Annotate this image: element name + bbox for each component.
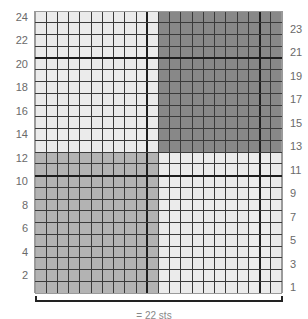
row-label-left: 18	[8, 81, 28, 93]
grid-line-horizontal	[35, 246, 282, 247]
grid-line-horizontal	[35, 257, 282, 258]
grid-line-horizontal	[35, 22, 282, 23]
row-label-left: 6	[8, 222, 28, 234]
row-label-left: 4	[8, 246, 28, 258]
grid-line-horizontal	[35, 281, 282, 282]
grid-line-horizontal	[35, 163, 282, 164]
knitting-chart-grid	[35, 11, 282, 293]
row-label-left: 14	[8, 128, 28, 140]
bracket-caption: = 22 sts	[0, 310, 308, 319]
row-label-left: 10	[8, 175, 28, 187]
row-label-right: 15	[290, 117, 308, 129]
grid-line-horizontal	[35, 69, 282, 70]
row-label-right: 23	[290, 23, 308, 35]
grid-line-horizontal	[35, 46, 282, 47]
row-label-right: 3	[290, 258, 308, 270]
grid-line-horizontal	[35, 187, 282, 188]
row-label-left: 16	[8, 105, 28, 117]
row-label-right: 5	[290, 234, 308, 246]
row-label-right: 7	[290, 211, 308, 223]
row-label-left: 2	[8, 269, 28, 281]
grid-line-horizontal	[35, 152, 282, 153]
width-bracket	[35, 296, 283, 302]
row-label-right: 17	[290, 93, 308, 105]
grid-line-horizontal	[35, 222, 282, 223]
grid-line-horizontal	[35, 234, 282, 235]
grid-line-horizontal	[35, 210, 282, 211]
row-label-left: 8	[8, 199, 28, 211]
grid-line-horizontal	[35, 81, 282, 82]
grid-line-horizontal	[35, 269, 282, 270]
row-label-right: 1	[290, 281, 308, 293]
row-label-left: 22	[8, 34, 28, 46]
grid-line-horizontal	[35, 34, 282, 35]
grid-line-horizontal	[35, 128, 282, 129]
row-label-left: 24	[8, 11, 28, 23]
grid-line-horizontal	[35, 116, 282, 117]
row-label-left: 20	[8, 58, 28, 70]
row-label-right: 9	[290, 187, 308, 199]
grid-line-horizontal	[35, 105, 282, 106]
grid-line-horizontal	[35, 140, 282, 141]
row-label-right: 19	[290, 70, 308, 82]
grid-line-horizontal	[35, 93, 282, 94]
grid-line-horizontal	[35, 175, 282, 177]
grid-line-horizontal	[35, 57, 282, 59]
grid-line-horizontal	[35, 199, 282, 200]
grid-line-horizontal	[35, 293, 282, 294]
row-label-left: 12	[8, 152, 28, 164]
row-label-right: 11	[290, 164, 308, 176]
grid-line-horizontal	[35, 11, 282, 12]
row-label-right: 21	[290, 46, 308, 58]
row-label-right: 13	[290, 140, 308, 152]
